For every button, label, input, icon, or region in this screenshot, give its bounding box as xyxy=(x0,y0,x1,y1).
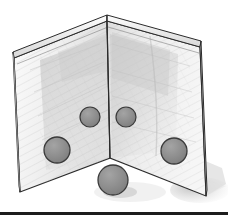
disc-lower-right[interactable] xyxy=(161,138,187,164)
disc-lower-left[interactable] xyxy=(44,137,70,163)
panel-sketch-illustration xyxy=(0,0,228,217)
disc-upper-right[interactable] xyxy=(116,107,136,127)
disc-upper-left[interactable] xyxy=(80,107,100,127)
disc-bottom-center[interactable] xyxy=(98,165,128,195)
sketch-canvas: Two hinged panels with five discs pencil… xyxy=(0,0,228,217)
bottom-rule xyxy=(0,212,228,215)
